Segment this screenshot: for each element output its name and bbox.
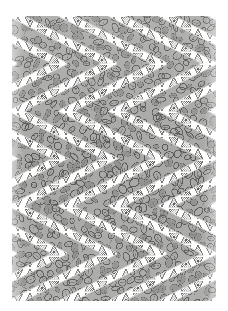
pattern-image-stage: Zigzag Chevron Textile Pattern Vertical …	[0, 0, 228, 311]
fabric-pattern-canvas	[12, 16, 216, 301]
